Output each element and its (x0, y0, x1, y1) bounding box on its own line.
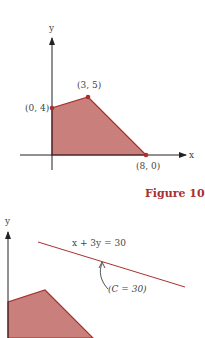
feasible-region-2 (8, 290, 93, 338)
y-axis-label: y (48, 23, 55, 33)
objective-line-label: x + 3y = 30 (72, 238, 126, 248)
vertex-0-4 (50, 106, 55, 111)
objective-line (38, 242, 185, 287)
diagram-canvas: y x (0, 4) (3, 5) (8, 0) Figure 10 y x +… (0, 0, 205, 338)
annotation-label: (C = 30) (108, 284, 147, 294)
vertex-3-5 (86, 95, 91, 100)
y-axis-label-2: y (4, 216, 11, 226)
figure-caption: Figure 10 (145, 187, 205, 200)
point-label-0-4: (0, 4) (25, 103, 49, 113)
point-label-8-0: (8, 0) (136, 161, 160, 171)
figure-1: y x (0, 4) (3, 5) (8, 0) Figure 10 (20, 23, 205, 200)
vertex-8-0 (144, 153, 149, 158)
point-label-3-5: (3, 5) (77, 80, 101, 90)
feasible-region (52, 97, 146, 155)
annotation-arrow (100, 264, 108, 289)
x-axis-label: x (189, 150, 194, 160)
figure-2: y x + 3y = 30 (C = 30) (4, 216, 185, 338)
